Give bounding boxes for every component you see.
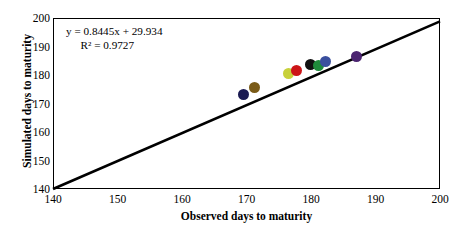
- x-tick-170: 170: [227, 194, 267, 206]
- data-point-marker: [249, 82, 260, 93]
- x-tick-190: 190: [356, 194, 396, 206]
- scatter-plot-figure: 200 190 180 170 160 150 140 140 150 160 …: [0, 0, 460, 235]
- x-tick-150: 150: [98, 194, 138, 206]
- regression-annotation: y = 0.8445x + 29.934 R² = 0.9727: [66, 24, 163, 52]
- x-axis-title: Observed days to maturity: [53, 210, 440, 222]
- x-tick-180: 180: [291, 194, 331, 206]
- x-tick-200: 200: [420, 194, 460, 206]
- x-tick-160: 160: [162, 194, 202, 206]
- r-squared-text: R² = 0.9727: [66, 38, 163, 52]
- regression-equation-text: y = 0.8445x + 29.934: [66, 24, 163, 38]
- x-tick-140: 140: [33, 194, 73, 206]
- data-point-marker: [351, 51, 362, 62]
- y-axis-title: Simulated days to maturity: [21, 16, 33, 186]
